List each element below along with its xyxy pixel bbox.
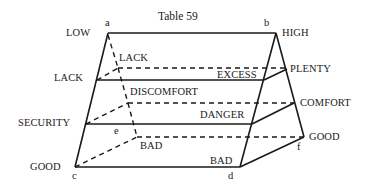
point-a-label: a bbox=[105, 17, 110, 28]
inner-label-bad-front: BAD bbox=[210, 155, 232, 166]
back-edge-a-mid bbox=[118, 68, 128, 103]
lack-connector bbox=[97, 68, 118, 80]
back-edge-a-lower bbox=[128, 103, 137, 137]
diagram-title: Table 59 bbox=[158, 10, 198, 22]
point-c-label: c bbox=[72, 170, 77, 181]
front-right-edge-bd bbox=[240, 33, 276, 167]
point-d-label: d bbox=[228, 170, 233, 181]
point-e-label: e bbox=[114, 125, 119, 136]
security-connector bbox=[86, 103, 128, 124]
base-edge-df bbox=[240, 137, 304, 167]
inner-label-bad-back: BAD bbox=[140, 140, 162, 151]
right-label-comfort: COMFORT bbox=[300, 97, 351, 108]
left-edge-ac bbox=[75, 33, 108, 167]
right-label-good: GOOD bbox=[309, 131, 340, 142]
inner-label-danger: DANGER bbox=[200, 109, 244, 120]
inner-label-excess: EXCESS bbox=[217, 69, 257, 80]
left-label-good: GOOD bbox=[30, 161, 61, 172]
excess-plenty-connector bbox=[264, 69, 287, 80]
left-label-lack: LACK bbox=[54, 72, 83, 83]
right-label-plenty: PLENTY bbox=[290, 63, 331, 74]
back-edge-a-upper bbox=[108, 35, 118, 68]
left-label-low: LOW bbox=[66, 27, 90, 38]
left-label-security: SECURITY bbox=[18, 117, 70, 128]
point-b-label: b bbox=[264, 17, 269, 28]
inner-label-discomfort: DISCOMFORT bbox=[130, 86, 198, 97]
danger-comfort-connector bbox=[252, 103, 294, 124]
good-connector bbox=[75, 137, 137, 167]
inner-label-lack: LACK bbox=[119, 52, 148, 63]
right-label-high: HIGH bbox=[282, 27, 309, 38]
back-right-edge-bf bbox=[276, 33, 304, 137]
point-f-label: f bbox=[297, 141, 301, 152]
